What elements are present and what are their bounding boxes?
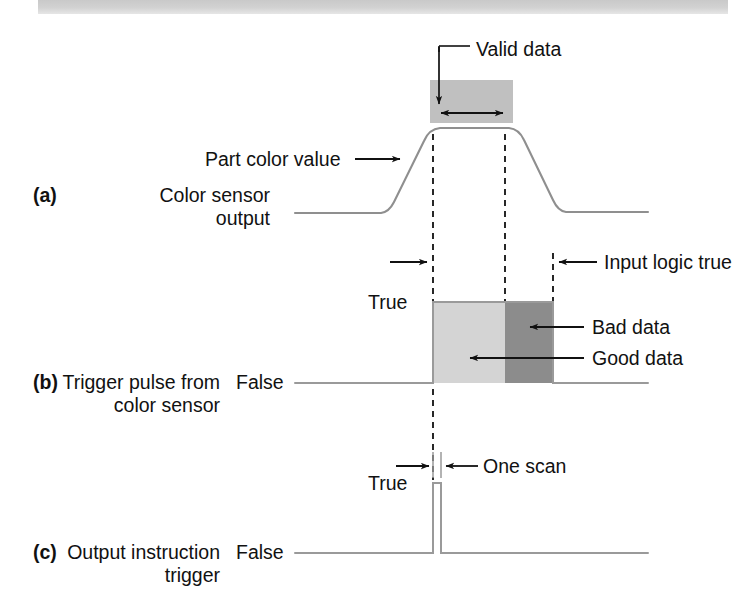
- section-b-description-line2: color sensor: [0, 394, 220, 417]
- section-b-level-true: True: [368, 291, 407, 314]
- annotation-valid-data: Valid data: [476, 38, 561, 61]
- section-c-level-false: False: [236, 541, 284, 564]
- section-a-description-line2: output: [0, 207, 270, 230]
- valid-data-highlight-box: [430, 80, 513, 123]
- annotation-input-logic-true: Input logic true: [604, 251, 732, 274]
- annotation-good-data: Good data: [592, 347, 683, 370]
- annotation-one-scan: One scan: [483, 455, 566, 478]
- section-c-level-true: True: [368, 472, 407, 495]
- output-trigger-trace: [295, 483, 648, 553]
- section-b-description-line1: Trigger pulse from: [0, 371, 220, 394]
- color-sensor-output-trace: [295, 128, 648, 213]
- section-c-description-line1: Output instruction: [0, 541, 220, 564]
- good-data-region: [433, 302, 505, 383]
- annotation-part-color-value: Part color value: [205, 148, 340, 171]
- section-c-description-line2: trigger: [0, 564, 220, 587]
- annotation-bad-data: Bad data: [592, 316, 670, 339]
- timing-diagram-figure: Valid data Part color value (a) Color se…: [0, 0, 740, 605]
- section-b-level-false: False: [236, 371, 284, 394]
- section-a-description-line1: Color sensor: [0, 184, 270, 207]
- bad-data-region: [505, 302, 553, 383]
